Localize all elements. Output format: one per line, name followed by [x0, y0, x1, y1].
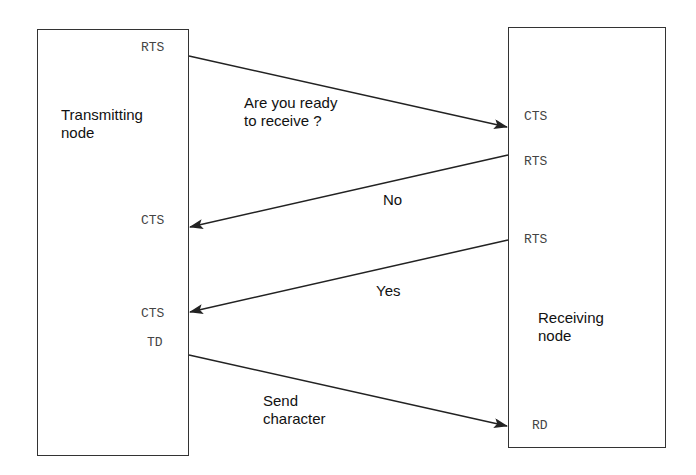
arrow-yes [190, 240, 508, 312]
arrow-send-character [189, 355, 507, 426]
arrow-no [190, 155, 508, 227]
arrow-ready-to-receive [189, 56, 507, 127]
arrows-layer [0, 0, 696, 475]
